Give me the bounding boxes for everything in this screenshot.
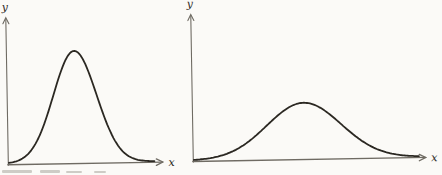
- y-axis-line: [191, 16, 194, 163]
- caption-smudge: [2, 170, 32, 173]
- figure-canvas: y x y x: [0, 0, 442, 175]
- right-distribution-panel: y x: [185, 0, 438, 169]
- caption-smudge: [40, 170, 60, 173]
- x-axis-label: x: [168, 156, 175, 169]
- y-axis-label: y: [0, 1, 8, 14]
- dual-distribution-figure: y x y x: [0, 0, 442, 175]
- x-axis-label: x: [431, 151, 438, 164]
- left-distribution-panel: y x: [0, 0, 175, 172]
- y-axis-label: y: [185, 0, 193, 11]
- scanned-textbook-figure: { "figure": { "background": "#fbfaf7", "…: [0, 0, 442, 175]
- caption-smudge: [66, 171, 82, 173]
- y-axis-line: [6, 19, 9, 166]
- frequency-curve-wide: [193, 101, 419, 160]
- x-axis-line: [193, 157, 425, 161]
- frequency-curve-narrow: [7, 50, 154, 164]
- caption-smudge: [94, 171, 106, 173]
- x-axis-line: [8, 162, 162, 165]
